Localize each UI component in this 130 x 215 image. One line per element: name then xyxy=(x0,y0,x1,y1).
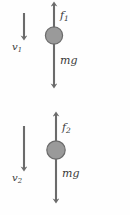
weight-label-mg-2-base: mg xyxy=(62,167,79,180)
velocity-label-2: v2 xyxy=(12,173,22,183)
force-label-f1: f1 xyxy=(60,10,69,21)
upper-system-group xyxy=(24,4,63,86)
force-label-f1-sub: 1 xyxy=(64,14,69,23)
weight-label-mg-2: mg xyxy=(62,168,79,179)
velocity-label-2-sub: 2 xyxy=(18,177,22,185)
velocity-label-1: v1 xyxy=(12,42,22,52)
velocity-label-2-base: v xyxy=(12,172,18,183)
velocity-label-1-base: v xyxy=(12,41,18,52)
physics-figure: v1 f1 mg v2 f2 mg xyxy=(0,0,130,215)
weight-label-mg-1: mg xyxy=(60,55,77,66)
weight-label-mg-1-base: mg xyxy=(60,54,77,67)
mass-disk-1 xyxy=(45,27,62,44)
force-label-f2: f2 xyxy=(62,122,71,133)
mass-disk-2 xyxy=(47,141,65,159)
velocity-label-1-sub: 1 xyxy=(18,46,22,54)
force-label-f2-sub: 2 xyxy=(66,126,71,135)
lower-system-group xyxy=(24,114,65,201)
